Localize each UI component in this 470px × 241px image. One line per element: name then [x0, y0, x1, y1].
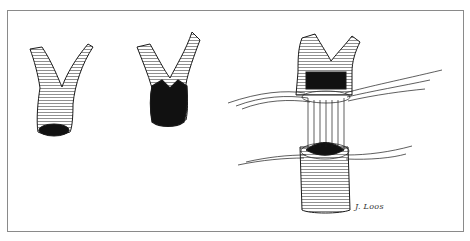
illustration [0, 0, 470, 241]
vessel-panel-3-recipient [300, 143, 350, 214]
vessel-panel-1 [30, 44, 93, 136]
artist-signature: J. Loos [355, 202, 384, 211]
vessel-panel-2 [137, 32, 200, 127]
vessel-panel-3-donor [296, 34, 360, 95]
